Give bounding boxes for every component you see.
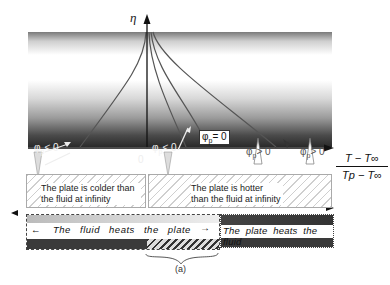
x-axis-label: T − T∞ Tp − T∞	[336, 152, 388, 181]
left-marker-icon	[11, 210, 18, 216]
pointer-icon	[164, 152, 172, 176]
hotter-region-text: The plate is hotter than the fluid at in…	[191, 183, 283, 205]
left-arrow-icon: ←	[31, 224, 41, 235]
brace	[146, 253, 218, 264]
plate-heats-fluid-text: The plate heats the fluid	[223, 225, 333, 247]
phi-negative-label-2: φp< 0	[152, 142, 177, 155]
band-bottom-dark	[27, 239, 147, 249]
right-arrow-icon: →	[200, 222, 210, 233]
colder-region-text: The plate is colder than the fluid at in…	[41, 183, 141, 205]
hotter-region: The plate is hotter than the fluid at in…	[148, 174, 332, 208]
plate-heats-fluid-band: The plate heats the fluid	[220, 214, 334, 248]
x-label-denominator: Tp − T∞	[336, 167, 388, 181]
eta-label: η	[130, 10, 136, 26]
x-label-numerator: T − T∞	[336, 152, 388, 167]
fluid-heats-plate-text: ←The fluid heats the plate	[31, 224, 191, 235]
phi-zero-label: φp= 0	[199, 130, 230, 145]
band-bottom-hatch	[147, 239, 219, 249]
diagram: η 0 φp< 0 φp< 0 φp= 0 φp> 0 φp> 0 T − T∞…	[0, 0, 390, 285]
marker-square	[218, 152, 226, 159]
origin-label: 0	[138, 154, 144, 165]
x-arrowhead-icon	[324, 145, 334, 152]
fluid-heats-plate-band: ←The fluid heats the plate	[26, 214, 220, 250]
eta-arrowhead-icon	[144, 14, 151, 24]
phi-positive-label-2: φp> 0	[300, 146, 325, 159]
phi-negative-label-1: φp< 0	[34, 142, 59, 155]
colder-region: The plate is colder than the fluid at in…	[26, 174, 146, 208]
phi-positive-label-1: φp> 0	[246, 146, 271, 159]
band-top-dark	[221, 215, 333, 225]
brace-label: (a)	[175, 264, 186, 274]
band-top-gradient	[27, 215, 219, 223]
